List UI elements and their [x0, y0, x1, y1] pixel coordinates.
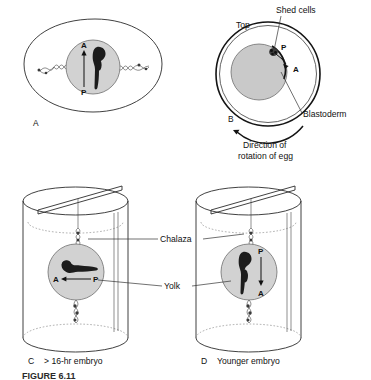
panel-a-posterior-label: P [81, 88, 87, 97]
panel-c-posterior-label: P [93, 275, 99, 284]
yolk-sphere-a [66, 40, 120, 94]
yolk-sphere-d [221, 244, 277, 300]
panel-b-anterior-label: A [293, 65, 299, 74]
panel-d-caption: Younger embryo [217, 356, 280, 366]
panel-b-posterior-label: P [281, 43, 287, 52]
panel-b-top-label: Top [236, 20, 250, 30]
panel-a-anterior-label: A [81, 41, 87, 50]
panel-c-anterior-label: A [53, 275, 59, 284]
panel-a-letter: A [33, 118, 39, 128]
panel-d-anterior-label: A [258, 289, 264, 298]
chalaza-label: Chalaza [160, 234, 192, 244]
panel-c-caption: > 16-hr embryo [44, 356, 103, 366]
embryology-figure: A P A P A Top [0, 0, 371, 380]
panel-d-letter: D [201, 356, 207, 366]
rotation-label-line2: rotation of egg [238, 151, 293, 161]
figure-root: A P A P A Top [0, 0, 371, 380]
panel-b-letter: B [228, 114, 234, 124]
yolk-sphere-c [48, 244, 104, 300]
figure-caption-partial: FIGURE 6.11 [22, 371, 76, 380]
panel-c-letter: C [28, 356, 34, 366]
blastoderm-label: Blastoderm [303, 109, 346, 119]
yolk-label: Yolk [164, 281, 181, 291]
shed-cells-label: Shed cells [276, 5, 316, 15]
rotation-label-line1: Direction of [243, 140, 287, 150]
panel-d-posterior-label: P [258, 247, 264, 256]
